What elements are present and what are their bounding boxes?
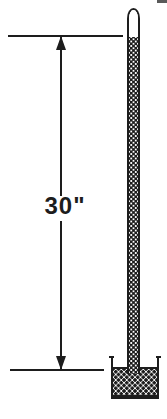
cup-bottom xyxy=(111,395,159,399)
dimension-label: 30" xyxy=(36,194,94,218)
arrowhead-down-icon xyxy=(56,356,66,370)
dimension-line-lower-segment xyxy=(60,221,62,370)
cup-right-rim-tick xyxy=(156,356,161,358)
cup-right-wall xyxy=(157,356,159,399)
mercury-top-reference-line xyxy=(8,35,123,37)
cup-left-rim-tick xyxy=(109,356,114,358)
mercury-column xyxy=(129,37,138,374)
dimension-line-upper-segment xyxy=(60,37,62,196)
cup-left-wall xyxy=(111,356,113,399)
barometer-tube xyxy=(127,8,140,374)
vacuum-gap xyxy=(129,10,138,37)
scan-artifact xyxy=(157,0,167,3)
arrowhead-up-icon xyxy=(56,36,66,50)
barometer-diagram: 30" xyxy=(0,0,167,419)
